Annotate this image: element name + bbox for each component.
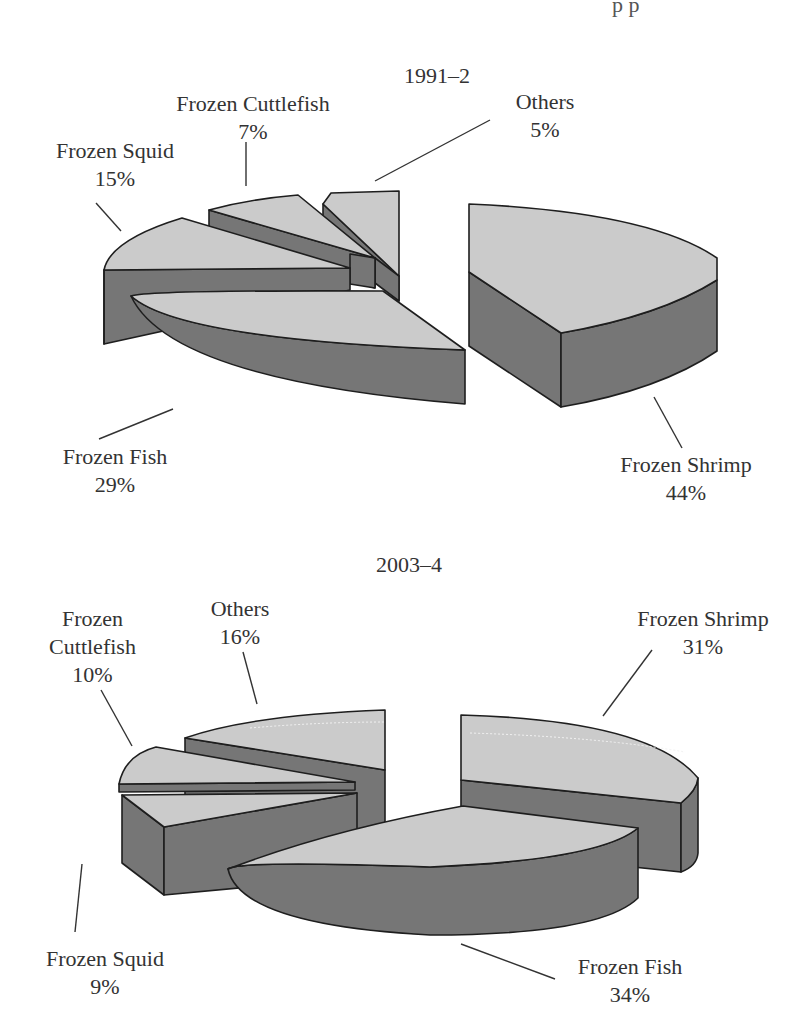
- label-2003-others: Others 16%: [195, 595, 285, 651]
- slice-value: 31%: [618, 633, 788, 661]
- slice-label: Others: [195, 595, 285, 623]
- slice-label: Frozen Squid: [40, 137, 190, 165]
- slice-label: Frozen Fish: [555, 953, 705, 981]
- slice-label: Frozen Shrimp: [596, 451, 776, 479]
- pie-chart-1991-2: [104, 191, 717, 407]
- slice-label: Frozen: [40, 605, 145, 633]
- slice-label: Others: [495, 88, 595, 116]
- label-2003-fish: Frozen Fish 34%: [555, 953, 705, 1009]
- slice-value: 44%: [596, 479, 776, 507]
- chart-title-1991-2: 1991–2: [337, 63, 537, 89]
- label-2003-squid: Frozen Squid 9%: [25, 945, 185, 1001]
- leader-1991-others: [375, 120, 490, 181]
- label-1991-shrimp: Frozen Shrimp 44%: [596, 451, 776, 507]
- leader-1991-fish: [99, 409, 173, 439]
- label-2003-shrimp: Frozen Shrimp 31%: [618, 605, 788, 661]
- leader-2003-cuttlefish: [101, 690, 132, 746]
- slice-label: Frozen Cuttlefish: [158, 90, 348, 118]
- chart-title-2003-4: 2003–4: [309, 552, 509, 578]
- slice-value: 5%: [495, 116, 595, 144]
- label-1991-squid: Frozen Squid 15%: [40, 137, 190, 193]
- slice-label: Cuttlefish: [40, 633, 145, 661]
- slice-value: 29%: [40, 471, 190, 499]
- leader-2003-others: [243, 652, 257, 704]
- leader-2003-squid: [75, 864, 82, 932]
- slice-label: Frozen Squid: [25, 945, 185, 973]
- label-1991-fish: Frozen Fish 29%: [40, 443, 190, 499]
- leader-1991-squid: [96, 203, 121, 231]
- slice-value: 16%: [195, 623, 285, 651]
- slice-cuttlefish-side: [350, 254, 375, 288]
- label-1991-others: Others 5%: [495, 88, 595, 144]
- slice-value: 9%: [25, 973, 185, 1001]
- slice-label: Frozen Fish: [40, 443, 190, 471]
- slice-value: 10%: [40, 661, 145, 689]
- slice-value: 34%: [555, 981, 705, 1009]
- pie-chart-2003-4: [119, 710, 698, 935]
- slice-value: 15%: [40, 165, 190, 193]
- slice-label: Frozen Shrimp: [618, 605, 788, 633]
- leader-1991-shrimp: [654, 397, 682, 448]
- leader-2003-fish: [461, 944, 555, 979]
- label-2003-cuttlefish: Frozen Cuttlefish 10%: [40, 605, 145, 689]
- slice-fish: [131, 291, 465, 404]
- slice-shrimp: [469, 204, 717, 407]
- figure: p p 1991–2 Frozen Cuttlefish 7% Frozen S…: [0, 0, 807, 1011]
